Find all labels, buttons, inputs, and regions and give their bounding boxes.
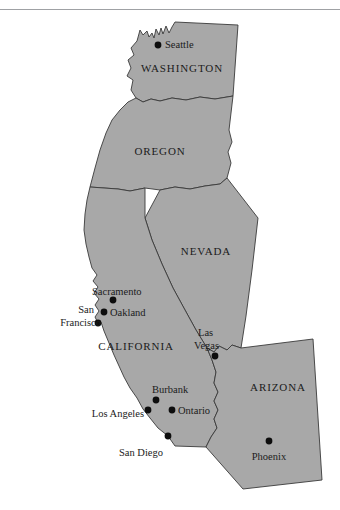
city-dot-ontario[interactable] [169, 407, 176, 414]
city-dot-seattle[interactable] [155, 42, 162, 49]
city-label-phoenix: Phoenix [252, 451, 287, 462]
city-label-sacramento: Sacramento [92, 286, 142, 297]
state-label-washington: WASHINGTON [141, 62, 223, 74]
west-coast-map: WASHINGTON OREGON NEVADA CALIFORNIA ARIZ… [0, 0, 340, 510]
city-label-seattle: Seattle [165, 39, 194, 50]
state-oregon[interactable] [90, 96, 233, 191]
state-label-oregon: OREGON [134, 145, 185, 157]
city-dot-oakland[interactable] [101, 309, 108, 316]
city-label-san-francisco-line2: Francisco [60, 317, 101, 328]
city-dot-sacramento[interactable] [110, 297, 117, 304]
city-dot-burbank[interactable] [153, 397, 160, 404]
city-dot-las-vegas[interactable] [212, 353, 219, 360]
city-dot-san-diego[interactable] [165, 433, 172, 440]
city-label-oakland: Oakland [110, 307, 146, 318]
state-label-arizona: ARIZONA [250, 381, 306, 393]
state-label-california: CALIFORNIA [98, 340, 174, 352]
city-label-ontario: Ontario [178, 405, 210, 416]
city-label-los-angeles: Los Angeles [92, 408, 144, 419]
city-label-san-diego: San Diego [119, 447, 163, 458]
city-label-burbank: Burbank [152, 384, 189, 395]
city-label-las-vegas-line2: Vegas [194, 340, 219, 351]
city-label-san-francisco-line1: San [78, 304, 95, 315]
city-dot-phoenix[interactable] [266, 438, 273, 445]
state-arizona[interactable] [206, 339, 322, 489]
map-figure: WASHINGTON OREGON NEVADA CALIFORNIA ARIZ… [0, 0, 340, 510]
state-label-nevada: NEVADA [181, 245, 231, 257]
city-dot-los-angeles[interactable] [145, 407, 152, 414]
city-label-las-vegas-line1: Las [198, 327, 213, 338]
